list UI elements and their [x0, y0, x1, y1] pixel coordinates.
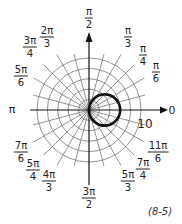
- label-2pi-3: 2π3: [40, 26, 54, 49]
- label-5pi-6: 5π6: [14, 65, 28, 88]
- ring-label-10: 10: [137, 117, 152, 131]
- label-5pi-3: 5π3: [121, 170, 135, 193]
- label-7pi-4: 7π4: [136, 158, 150, 181]
- label-pi-6: π6: [152, 61, 160, 84]
- label-pi-4: π4: [139, 44, 147, 67]
- label-7pi-6: 7π6: [14, 141, 28, 164]
- label-pi-2: π2: [85, 7, 93, 30]
- arrow-right-icon: [160, 107, 168, 114]
- label-4pi-3: 4π3: [42, 170, 56, 193]
- label-pi-3: π3: [124, 26, 132, 49]
- label-3pi-2: 3π2: [82, 187, 96, 210]
- label-0: 0: [169, 104, 176, 117]
- arrow-up-icon: [86, 32, 93, 42]
- equation-tag: (8-5): [148, 206, 172, 217]
- label-3pi-4: 3π4: [23, 36, 37, 59]
- label-11pi-6: 11π6: [148, 141, 169, 164]
- label-pi: π: [9, 103, 16, 116]
